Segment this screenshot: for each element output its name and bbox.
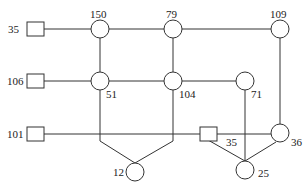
nodes (27, 20, 289, 181)
circle-node-150[interactable] (91, 20, 109, 38)
square-node-35-top[interactable] (27, 22, 44, 36)
edge-104-12 (135, 90, 173, 163)
label-106: 106 (7, 75, 24, 87)
square-node-101[interactable] (27, 127, 44, 141)
square-node-106[interactable] (27, 74, 44, 88)
label-12: 12 (113, 166, 124, 178)
circle-node-109[interactable] (271, 20, 289, 38)
circle-node-36[interactable] (271, 124, 289, 142)
circle-node-79[interactable] (164, 20, 182, 38)
label-51: 51 (106, 88, 117, 100)
label-104: 104 (179, 88, 196, 100)
edges (44, 29, 280, 163)
label-25: 25 (258, 167, 270, 179)
label-109: 109 (270, 8, 287, 20)
label-150: 150 (90, 8, 107, 20)
edge-36-25 (245, 142, 276, 161)
label-35-top: 35 (8, 23, 20, 35)
edge-51-12 (100, 90, 135, 163)
circle-node-25[interactable] (236, 161, 254, 179)
label-36: 36 (291, 136, 303, 148)
label-101: 101 (7, 128, 24, 140)
square-node-35-bottom[interactable] (200, 127, 217, 141)
circle-node-12[interactable] (126, 163, 144, 181)
label-71: 71 (251, 88, 262, 100)
network-diagram: 35 106 101 150 79 109 51 104 71 35 36 12… (0, 0, 305, 189)
label-35-bottom: 35 (226, 136, 238, 148)
label-79: 79 (166, 8, 178, 20)
